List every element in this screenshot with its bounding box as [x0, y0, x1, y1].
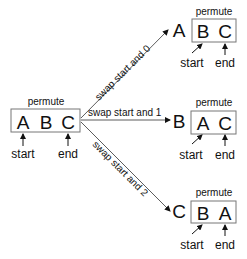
child-0-letter-0: B: [197, 21, 210, 42]
root-permute-label: permute: [28, 96, 65, 107]
root-letter-0: A: [17, 112, 30, 133]
child-0-start-label: start: [180, 56, 204, 70]
child-1-permute-label: permute: [196, 97, 233, 108]
child-2-start-label: start: [180, 238, 204, 252]
child-1-start-label: start: [179, 148, 203, 162]
permutation-tree-diagram: permute A B C start end swap start and 0…: [0, 0, 247, 259]
child-0-start-arrow: [192, 44, 202, 53]
child-1-letter-0: A: [197, 113, 210, 134]
child-2-permute-label: permute: [196, 187, 233, 198]
child-1-letter-1: C: [218, 113, 232, 134]
edge-2-label: swap start and 2: [91, 139, 151, 199]
child-1-fixed-letter: B: [173, 111, 186, 132]
child-2-end-label: end: [215, 238, 235, 252]
edge-2: swap start and 2: [81, 122, 170, 211]
edge-1-label: swap start and 1: [88, 107, 162, 118]
child-node-2: C permute B A start end: [172, 187, 236, 252]
child-2-letter-0: B: [197, 203, 210, 224]
root-node: permute A B C start end: [11, 96, 80, 161]
child-node-1: B permute A C start end: [173, 97, 236, 162]
child-1-end-label: end: [215, 148, 235, 162]
child-0-fixed-letter: A: [173, 20, 186, 41]
child-0-end-label: end: [215, 56, 235, 70]
child-2-letter-1: A: [219, 203, 232, 224]
child-2-fixed-letter: C: [172, 201, 186, 222]
child-1-start-arrow: [192, 135, 202, 144]
child-0-letter-1: C: [218, 21, 232, 42]
edge-1: swap start and 1: [81, 107, 170, 120]
root-start-label: start: [11, 147, 35, 161]
edge-0: swap start and 0: [81, 30, 168, 118]
edge-0-label: swap start and 0: [93, 42, 153, 102]
root-letter-2: C: [61, 112, 75, 133]
root-end-label: end: [58, 147, 78, 161]
child-node-0: A permute B C start end: [173, 6, 236, 70]
child-0-permute-label: permute: [196, 6, 233, 17]
root-letter-1: B: [40, 112, 53, 133]
child-2-start-arrow: [192, 225, 202, 234]
